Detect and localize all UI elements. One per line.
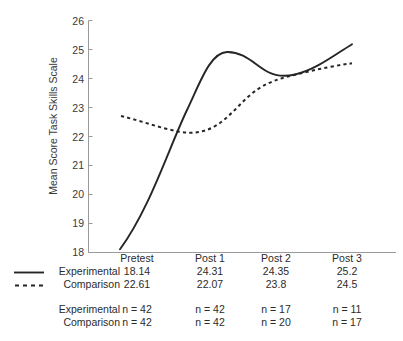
legend-value-table: Experimental 18.14 24.31 24.35 25.2 Comp… xyxy=(0,265,403,291)
value-cell: 18.14 xyxy=(101,265,173,278)
category-header-row: Pretest Post 1 Post 2 Post 3 xyxy=(0,252,403,266)
series-line-experimental xyxy=(120,44,352,249)
category-label: Post 1 xyxy=(174,252,246,265)
n-cell: n = 17 xyxy=(311,316,383,329)
value-cell: 22.07 xyxy=(174,278,246,291)
value-cell: 22.61 xyxy=(101,278,173,291)
y-axis-ticks xyxy=(89,21,93,253)
n-cell: n = 11 xyxy=(311,303,383,316)
category-label: Post 2 xyxy=(240,252,312,265)
value-cell: 24.5 xyxy=(311,278,383,291)
category-label: Pretest xyxy=(101,252,173,265)
n-cell: n = 17 xyxy=(240,303,312,316)
series-line-comparison xyxy=(121,63,352,132)
category-label: Post 3 xyxy=(311,252,383,265)
table-row: Experimental 18.14 24.31 24.35 25.2 xyxy=(0,265,403,278)
value-cell: 24.35 xyxy=(240,265,312,278)
table-row: Experimental n = 42 n = 42 n = 17 n = 11 xyxy=(0,303,403,316)
chart-figure: 26 25 24 23 22 21 20 19 18 Mean Score Ta… xyxy=(0,0,403,341)
table-row: Comparison n = 42 n = 42 n = 20 n = 17 xyxy=(0,316,403,329)
value-cell: 25.2 xyxy=(311,265,383,278)
sample-size-table: Experimental n = 42 n = 42 n = 17 n = 11… xyxy=(0,303,403,329)
value-cell: 24.31 xyxy=(174,265,246,278)
n-cell: n = 42 xyxy=(101,316,173,329)
n-cell: n = 20 xyxy=(240,316,312,329)
n-cell: n = 42 xyxy=(174,316,246,329)
table-row: Comparison 22.61 22.07 23.8 24.5 xyxy=(0,278,403,291)
value-cell: 23.8 xyxy=(240,278,312,291)
n-cell: n = 42 xyxy=(174,303,246,316)
n-cell: n = 42 xyxy=(101,303,173,316)
